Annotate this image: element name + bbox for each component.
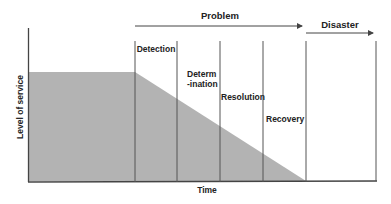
- x-axis: [28, 181, 377, 182]
- y-axis-label: Level of service: [15, 75, 25, 139]
- incident-lifecycle-diagram: Problem Disaster Detection Determ -inati…: [0, 0, 391, 204]
- problem-label: Problem: [201, 10, 239, 21]
- phase-determination-label-line2: -ination: [187, 79, 218, 89]
- phase-detection-label: Detection: [137, 44, 176, 54]
- phase-resolution-label: Resolution: [221, 92, 265, 102]
- disaster-label: Disaster: [321, 19, 359, 30]
- x-axis-label: Time: [197, 185, 217, 195]
- phase-determination-label-line1: Determ: [187, 69, 217, 79]
- service-level-area: [29, 72, 306, 181]
- phase-recovery-label: Recovery: [266, 114, 305, 124]
